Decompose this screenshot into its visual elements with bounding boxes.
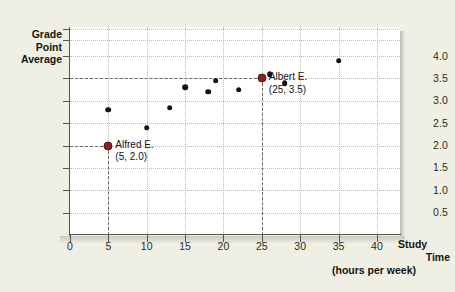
x-tick-label: 0 <box>55 240 85 252</box>
y-axis-line <box>69 27 70 236</box>
data-point <box>213 78 219 84</box>
y-tick-mark <box>63 56 70 57</box>
annotation-coordinates: (25, 3.5) <box>269 84 307 97</box>
y-tick-mark <box>63 78 70 79</box>
x-axis-title: Study Time <box>398 238 455 263</box>
y-tick-label: 2.5 <box>390 117 448 129</box>
plot-area <box>70 27 400 235</box>
guide-line-horizontal <box>70 78 262 79</box>
gridline-horizontal <box>70 56 400 57</box>
x-tick-label: 20 <box>208 240 238 252</box>
x-axis-title-line-2: Time <box>398 251 455 264</box>
y-tick-label: 1.5 <box>390 161 448 173</box>
gridline-horizontal <box>70 168 400 169</box>
guide-line-vertical <box>108 146 109 235</box>
gridline-horizontal <box>70 123 400 124</box>
data-point <box>106 107 112 113</box>
y-tick-mark <box>63 168 70 169</box>
guide-line-horizontal <box>70 146 108 147</box>
data-point <box>336 58 342 64</box>
data-point <box>182 85 188 91</box>
gridline-horizontal <box>70 29 400 30</box>
data-point-highlighted <box>257 74 266 83</box>
y-axis-title-line-1: Grade <box>32 28 62 40</box>
gridline-vertical <box>147 27 148 235</box>
y-tick-mark <box>63 123 70 124</box>
y-tick-label: 3.5 <box>390 72 448 84</box>
gridline-vertical <box>300 27 301 235</box>
x-tick-label: 35 <box>324 240 354 252</box>
annotation-name: Albert E. <box>269 71 307 84</box>
y-axis-title-line-3: Average <box>21 53 62 65</box>
y-tick-mark <box>63 29 70 30</box>
x-axis-line <box>69 234 401 235</box>
gridline-horizontal <box>70 213 400 214</box>
x-tick-label: 10 <box>132 240 162 252</box>
y-axis-title-line-2: Point <box>36 41 62 53</box>
data-point <box>144 125 150 131</box>
y-tick-label: 2.0 <box>390 139 448 151</box>
annotation-coordinates: (5, 2.0) <box>115 151 153 164</box>
x-tick-label: 25 <box>247 240 277 252</box>
y-tick-label: 1.0 <box>390 184 448 196</box>
y-tick-label: 3.0 <box>390 94 448 106</box>
gridline-horizontal <box>70 101 400 102</box>
y-tick-mark <box>63 40 70 41</box>
x-tick-label: 40 <box>362 240 392 252</box>
y-axis-title: Grade Point Average <box>4 28 62 66</box>
gridline-horizontal <box>70 190 400 191</box>
point-annotation: Albert E.(25, 3.5) <box>269 71 307 96</box>
y-tick-mark <box>63 213 70 214</box>
x-tick-label: 5 <box>93 240 123 252</box>
gridline-vertical <box>377 27 378 235</box>
y-tick-mark <box>63 146 70 147</box>
y-tick-mark <box>63 190 70 191</box>
point-annotation: Alfred E.(5, 2.0) <box>115 139 153 164</box>
y-tick-label: 0.5 <box>390 206 448 218</box>
x-tick-label: 30 <box>285 240 315 252</box>
y-tick-mark <box>63 101 70 102</box>
data-point <box>236 87 242 93</box>
x-axis-units: (hours per week) <box>300 264 448 276</box>
gridline-vertical <box>185 27 186 235</box>
data-point <box>205 89 211 95</box>
data-point <box>167 105 173 111</box>
data-point-highlighted <box>104 141 113 150</box>
x-axis-title-line-1: Study <box>398 238 455 251</box>
x-tick-label: 15 <box>170 240 200 252</box>
annotation-name: Alfred E. <box>115 139 153 152</box>
gridline-horizontal <box>70 40 400 41</box>
y-tick-label: 4.0 <box>390 50 448 62</box>
gridline-vertical <box>223 27 224 235</box>
guide-line-vertical <box>262 78 263 235</box>
